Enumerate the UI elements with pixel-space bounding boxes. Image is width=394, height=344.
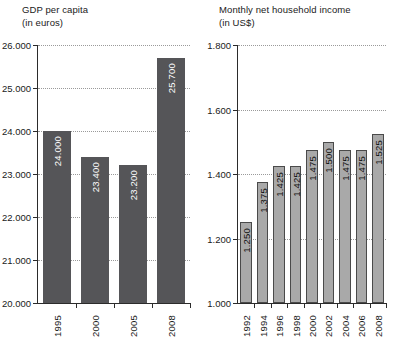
bar-value-label: 23.200 (127, 170, 138, 200)
bar-value-label: 1.475 (356, 156, 367, 181)
x-axis-label: 2004 (340, 315, 351, 337)
x-axis-label: 1995 (52, 315, 63, 337)
plot-area-income: 1.0001.2001.4001.6001.8001.25019921.3751… (237, 45, 386, 304)
x-axis-label: 2000 (307, 315, 318, 337)
chart-title-income: Monthly net household income (in US$) (219, 4, 351, 29)
bar[interactable]: 1.425 (290, 166, 302, 303)
y-axis-tick (233, 45, 238, 46)
bar[interactable]: 23.200 (119, 165, 147, 303)
y-axis-tick (33, 88, 38, 89)
y-axis-label: 26.000 (2, 40, 31, 51)
chart-subtitle-line: (in euros) (22, 17, 88, 30)
y-axis-label: 22.000 (2, 212, 31, 223)
bar-value-label: 1.475 (339, 156, 350, 181)
bar[interactable]: 25.700 (157, 58, 185, 303)
x-axis-tick (114, 303, 115, 308)
y-axis-label: 23.000 (2, 169, 31, 180)
bar[interactable]: 1.375 (257, 182, 269, 303)
chart-panel-gdp-per-capita: GDP per capita (in euros) 20.00021.00022… (0, 0, 197, 344)
x-axis-tick (386, 303, 387, 308)
y-axis-label: 20.000 (2, 298, 31, 309)
y-axis-label: 25.000 (2, 83, 31, 94)
y-axis-label: 1.200 (207, 233, 231, 244)
x-axis-label: 2008 (166, 315, 177, 337)
x-axis-tick (353, 303, 354, 308)
gridline (238, 45, 386, 46)
x-axis-tick (152, 303, 153, 308)
chart-panel-household-income: Monthly net household income (in US$) 1.… (197, 0, 394, 344)
bar-value-label: 1.525 (372, 140, 383, 165)
y-axis-label: 1.000 (207, 298, 231, 309)
bar[interactable]: 1.475 (306, 150, 318, 303)
bar-value-label: 1.475 (306, 156, 317, 181)
bar[interactable]: 1.475 (339, 150, 351, 303)
bar-value-label: 1.425 (274, 172, 285, 197)
x-axis-tick (337, 303, 338, 308)
bar-value-label: 1.425 (290, 172, 301, 197)
x-axis-label: 2000 (90, 315, 101, 337)
y-axis-label: 21.000 (2, 255, 31, 266)
bar[interactable]: 1.250 (240, 222, 252, 303)
bar[interactable]: 24.000 (43, 131, 71, 303)
bar-value-label: 1.250 (241, 228, 252, 253)
y-axis-tick (33, 174, 38, 175)
bar[interactable]: 1.475 (356, 150, 368, 303)
x-axis-label: 2006 (356, 315, 367, 337)
bar-value-label: 1.375 (257, 188, 268, 213)
y-axis-tick (33, 303, 38, 304)
x-axis-label: 2008 (373, 315, 384, 337)
bar-value-label: 1.500 (323, 148, 334, 173)
chart-subtitle-line: (in US$) (219, 17, 351, 30)
y-axis-label: 1.400 (207, 169, 231, 180)
bar[interactable]: 1.525 (372, 134, 384, 303)
bar-value-label: 23.400 (89, 162, 100, 192)
x-axis-label: 1996 (274, 315, 285, 337)
x-axis-tick (370, 303, 371, 308)
x-axis-tick (76, 303, 77, 308)
plot-area-gdp: 20.00021.00022.00023.00024.00025.00026.0… (37, 45, 190, 304)
x-axis-tick (271, 303, 272, 308)
y-axis-tick (33, 217, 38, 218)
x-axis-label: 2005 (128, 315, 139, 337)
x-axis-tick (254, 303, 255, 308)
y-axis-tick (233, 174, 238, 175)
y-axis-tick (33, 131, 38, 132)
bar-value-label: 24.000 (51, 136, 62, 166)
x-axis-label: 2002 (323, 315, 334, 337)
chart-title-gdp: GDP per capita (in euros) (22, 4, 88, 29)
y-axis-label: 1.800 (207, 40, 231, 51)
y-axis-tick (33, 260, 38, 261)
bar[interactable]: 1.425 (273, 166, 285, 303)
x-axis-tick (190, 303, 191, 308)
figure-root: GDP per capita (in euros) 20.00021.00022… (0, 0, 394, 344)
y-axis-tick (233, 303, 238, 304)
bar-value-label: 25.700 (165, 63, 176, 93)
x-axis-tick (320, 303, 321, 308)
chart-title-line: Monthly net household income (219, 4, 351, 15)
gridline (38, 45, 190, 46)
y-axis-tick (233, 110, 238, 111)
chart-title-line: GDP per capita (22, 4, 88, 15)
y-axis-tick (233, 239, 238, 240)
x-axis-label: 1992 (241, 315, 252, 337)
bar[interactable]: 23.400 (81, 157, 109, 303)
x-axis-label: 1994 (258, 315, 269, 337)
x-axis-tick (287, 303, 288, 308)
y-axis-label: 24.000 (2, 126, 31, 137)
y-axis-tick (33, 45, 38, 46)
bar[interactable]: 1.500 (323, 142, 335, 303)
x-axis-tick (304, 303, 305, 308)
gridline (238, 110, 386, 111)
x-axis-label: 1998 (291, 315, 302, 337)
y-axis-label: 1.600 (207, 104, 231, 115)
